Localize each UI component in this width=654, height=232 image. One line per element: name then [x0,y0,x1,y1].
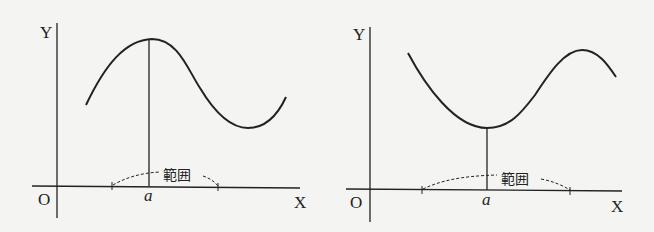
right-y-label: Y [353,25,365,44]
left-range-dashed-arc-right [203,176,218,186]
left-curve [86,39,286,128]
left-x-axis [32,186,300,188]
right-graph: Y O X a 範囲 [346,25,623,222]
right-origin-label: O [350,193,362,212]
left-range-label: 範囲 [163,167,191,183]
left-x-label: X [294,193,306,212]
left-range-dashed-arc-left [113,172,160,185]
left-a-label: a [144,186,153,205]
left-graph: Y O X a 範囲 [32,23,306,218]
left-y-label: Y [40,23,52,42]
right-x-label: X [611,197,623,216]
right-range-dashed-arc-right [541,179,570,190]
right-range-dashed-arc-left [423,175,497,189]
right-curve [408,50,616,128]
diagram-canvas: Y O X a 範囲 Y O X a 範囲 [0,0,654,232]
right-a-label: a [482,190,491,209]
right-range-label: 範囲 [501,171,529,187]
left-origin-label: O [38,190,50,209]
